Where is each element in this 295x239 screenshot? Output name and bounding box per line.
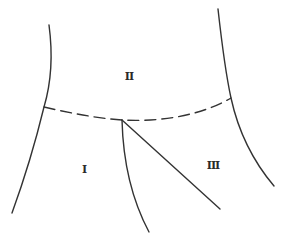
lower-left-branch-curve [122,120,149,232]
diagram-canvas [0,0,295,239]
region-label-III: III [207,160,219,171]
region-label-I: I [82,164,86,175]
region-label-II: II [125,71,133,82]
right-boundary-curve [218,9,274,186]
left-boundary-curve [12,25,51,213]
upper-divider-dashed [44,98,231,120]
lower-right-branch-line [122,120,220,209]
